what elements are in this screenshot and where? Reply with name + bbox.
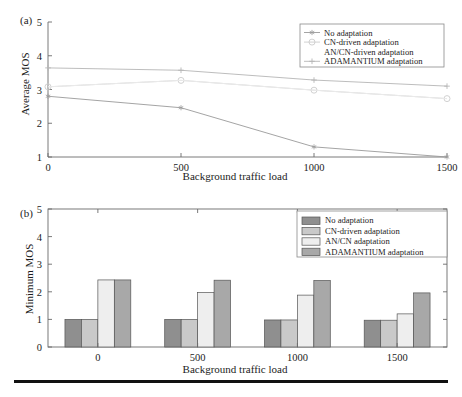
svg-text:CN-driven adaptation: CN-driven adaptation	[325, 226, 400, 236]
svg-text:5: 5	[37, 17, 42, 28]
svg-text:CN-driven adaptation: CN-driven adaptation	[324, 37, 399, 47]
svg-text:1000: 1000	[287, 352, 308, 363]
panel-a-y-axis-label: Average MOS	[19, 42, 31, 126]
svg-text:No adaptation: No adaptation	[325, 215, 374, 225]
panel-a-plot: 12345050010001500No adaptationCN-driven …	[0, 0, 462, 195]
svg-text:ADAMANTIUM adaptation: ADAMANTIUM adaptation	[325, 247, 424, 257]
bar	[81, 319, 97, 347]
panel-a-x-axis-label: Background traffic load	[60, 170, 410, 182]
bar	[281, 320, 297, 347]
svg-text:3: 3	[37, 259, 42, 270]
svg-text:2: 2	[37, 118, 42, 129]
panel-b-y-axis-label: Minimum MOS	[23, 233, 35, 325]
bar	[397, 314, 413, 347]
panel-b-x-axis-label: Background traffic load	[60, 363, 410, 375]
series-cn-driven-adaptation	[45, 77, 450, 101]
svg-text:No adaptation: No adaptation	[324, 28, 373, 38]
svg-text:ADAMANTIUM adaptation: ADAMANTIUM adaptation	[324, 56, 423, 66]
panel-a-legend: No adaptationCN-driven adaptationAN/CN-d…	[300, 24, 444, 67]
svg-text:2: 2	[37, 287, 42, 298]
series-no-adaptation	[46, 94, 450, 160]
svg-text:4: 4	[37, 232, 43, 243]
svg-text:1500: 1500	[437, 162, 458, 173]
svg-text:0: 0	[95, 352, 100, 363]
svg-text:0: 0	[45, 162, 50, 173]
figure-container: (a) Average MOS Background traffic load …	[0, 0, 462, 397]
svg-text:1500: 1500	[387, 352, 408, 363]
panel-a-label: (a)	[20, 14, 32, 26]
bar	[414, 293, 430, 347]
svg-text:500: 500	[190, 352, 206, 363]
panel-b-minimum-mos: (b) Minimum MOS Background traffic load …	[0, 195, 462, 397]
svg-text:3: 3	[37, 85, 42, 96]
bar	[364, 320, 380, 347]
svg-text:1: 1	[37, 314, 42, 325]
svg-text:4: 4	[37, 51, 43, 62]
svg-text:0: 0	[37, 342, 42, 353]
panel-a-average-mos: (a) Average MOS Background traffic load …	[0, 0, 462, 195]
bar	[98, 280, 114, 347]
bar	[198, 293, 214, 347]
bar	[214, 280, 230, 347]
panel-b-label: (b)	[20, 207, 33, 219]
svg-text:1: 1	[37, 152, 42, 163]
bottom-horizontal-rule	[14, 380, 448, 383]
bar	[165, 319, 181, 347]
bar	[65, 319, 81, 347]
bar	[181, 319, 197, 347]
bar	[114, 280, 130, 347]
svg-text:AN/CN adaptation: AN/CN adaptation	[325, 236, 390, 246]
svg-text:5: 5	[37, 204, 42, 215]
bar	[297, 295, 313, 347]
bar	[314, 280, 330, 347]
bar	[381, 320, 397, 347]
bar	[264, 320, 280, 347]
panel-b-legend: No adaptationCN-driven adaptationAN/CN a…	[297, 211, 447, 257]
svg-text:AN/CN-driven adaptation: AN/CN-driven adaptation	[324, 47, 414, 57]
